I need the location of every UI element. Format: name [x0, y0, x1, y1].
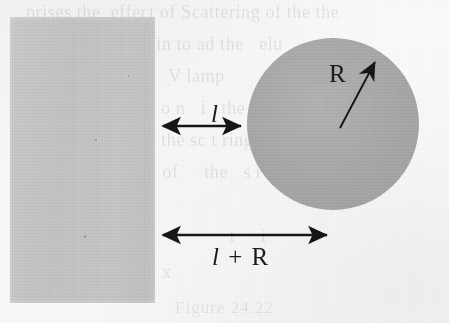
figure-canvas: prises the effect of Scattering of the t… [0, 0, 449, 323]
scan-grain-overlay [0, 0, 449, 323]
